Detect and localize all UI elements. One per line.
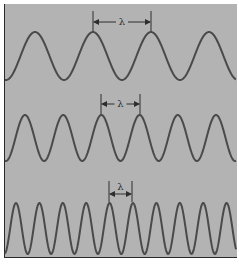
wave-medium-wavelength: λ [5,94,236,161]
wave-diagram: λ λ λ [0,0,239,264]
wavelength-label: λ [119,16,126,27]
sine-wave [5,203,236,254]
wavelength-label: λ [117,181,124,192]
wavelength-figure: λ λ λ [0,0,239,264]
wavelength-label: λ [117,98,124,109]
wave-long-wavelength: λ [5,11,236,80]
sine-wave [5,32,236,80]
sine-wave [5,115,236,161]
wave-short-wavelength: λ [5,181,236,254]
